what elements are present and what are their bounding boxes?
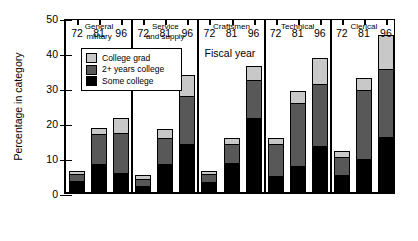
x-tick-81 (364, 20, 366, 25)
y-tick-label-0: 0 (32, 189, 58, 200)
bar-segment-some (180, 144, 194, 191)
bar-segment-two (180, 96, 194, 144)
bar-service-and supply-81 (157, 129, 173, 192)
bar-segment-grad (114, 119, 128, 133)
x-tick-81 (232, 20, 234, 25)
legend-label-two-plus-years-college: 2+ years college (102, 65, 164, 74)
legend-swatch-two-plus-years-college (86, 65, 97, 75)
bar-craftsmen-96 (246, 66, 262, 192)
x-tick-72 (209, 20, 211, 25)
x-tick-81 (165, 20, 167, 25)
bar-segment-some (357, 159, 371, 191)
bar-segment-grad (313, 59, 327, 84)
bar-service-and supply-96 (179, 75, 195, 192)
y-tick-inner-50 (66, 20, 72, 21)
bar-craftsmen-81 (224, 138, 240, 192)
bar-segment-grad (357, 79, 371, 90)
bars-layer (66, 20, 394, 192)
bar-segment-two (202, 174, 216, 182)
bar-segment-two (225, 144, 239, 163)
bar-segment-some (136, 186, 150, 191)
x-tick-72 (143, 20, 145, 25)
bar-segment-two (313, 84, 327, 146)
bar-segment-grad (291, 92, 305, 103)
y-tick-inner-20 (66, 125, 72, 126)
bar-segment-two (247, 80, 261, 119)
legend-label-college-grad: College grad (102, 54, 150, 63)
y-tick-label-10: 10 (32, 154, 58, 165)
x-tick-81 (99, 20, 101, 25)
bar-general-military-72 (69, 171, 85, 192)
bar-segment-some (247, 118, 261, 191)
y-tick-inner-0 (66, 195, 72, 196)
x-tick-72 (77, 20, 79, 25)
x-tick-96 (320, 20, 322, 25)
bar-segment-some (70, 181, 84, 191)
bar-segment-some (158, 164, 172, 191)
bar-technical-81 (290, 91, 306, 192)
y-axis-title: Percentage in category (12, 19, 26, 194)
bar-segment-two (114, 133, 128, 173)
bar-segment-some (114, 173, 128, 191)
legend-swatch-college-grad (86, 53, 97, 63)
legend: College grad 2+ years college Some colle… (81, 48, 182, 91)
bar-clerical-72 (334, 151, 350, 192)
y-tick-label-30: 30 (32, 84, 58, 95)
bar-segment-two (291, 103, 305, 166)
bar-segment-some (291, 166, 305, 191)
stacked-bar-chart: General militaryService and supplyCrafts… (0, 0, 418, 241)
y-axis-title-holder: Percentage in category (12, 19, 26, 194)
bar-segment-some (202, 182, 216, 192)
bar-craftsmen-72 (201, 171, 217, 192)
bar-segment-grad (247, 67, 261, 80)
y-tick-inner-30 (66, 90, 72, 91)
bar-general-military-96 (113, 118, 129, 192)
y-tick-label-40: 40 (32, 49, 58, 60)
bar-segment-two (70, 174, 84, 181)
bar-segment-grad (158, 130, 172, 138)
x-tick-96 (121, 20, 123, 25)
bar-segment-two (269, 144, 283, 176)
x-tick-72 (276, 20, 278, 25)
bar-segment-some (225, 163, 239, 191)
bar-segment-grad (180, 76, 194, 96)
group-separator (131, 20, 133, 192)
bar-segment-some (269, 176, 283, 191)
bar-segment-two (357, 90, 371, 159)
legend-label-some-college: Some college (102, 77, 154, 86)
group-separator (197, 20, 199, 192)
bar-service-and supply-72 (135, 175, 151, 192)
legend-item-some-college: Some college (86, 76, 177, 87)
bar-general-military-81 (91, 128, 107, 192)
y-tick-label-50: 50 (32, 14, 58, 25)
x-tick-96 (386, 20, 388, 25)
bar-segment-some (379, 137, 393, 191)
bar-segment-some (313, 146, 327, 191)
x-tick-96 (187, 20, 189, 25)
bar-technical-72 (268, 138, 284, 192)
legend-swatch-some-college (86, 76, 97, 86)
bar-segment-two (92, 134, 106, 163)
legend-item-college-grad: College grad (86, 53, 177, 64)
bar-segment-some (92, 164, 106, 191)
bar-segment-two (158, 138, 172, 164)
bar-segment-two (335, 157, 349, 175)
bar-technical-96 (312, 58, 328, 192)
x-tick-81 (298, 20, 300, 25)
bar-segment-some (335, 175, 349, 191)
y-tick-inner-10 (66, 160, 72, 161)
x-tick-96 (254, 20, 256, 25)
bar-segment-two (379, 69, 393, 137)
legend-item-two-plus-years-college: 2+ years college (86, 64, 177, 75)
group-separator (264, 20, 266, 192)
group-separator (330, 20, 332, 192)
x-tick-72 (342, 20, 344, 25)
plot-area: General militaryService and supplyCrafts… (64, 19, 395, 194)
bar-clerical-81 (356, 78, 372, 192)
y-tick-label-20: 20 (32, 119, 58, 130)
x-tick-label-96: 96 (373, 27, 399, 39)
